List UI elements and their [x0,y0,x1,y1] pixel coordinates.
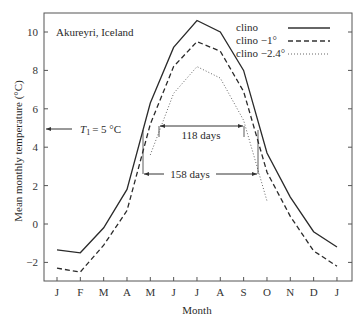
legend-label-clino: clino [236,21,258,33]
arrow-left-icon [160,124,165,128]
plot-frame [44,13,352,281]
x-tick-label: M [145,286,155,298]
y-tick-label: 2 [33,180,39,192]
series-line [57,42,337,272]
arrow-left-icon [46,127,51,131]
x-tick-label: F [77,286,83,298]
x-axis: JFMAMJJASONDJ [55,277,340,298]
threshold-annotation: T1= 5 °C [46,123,121,137]
y-axis-label: Mean monthly temperature (°C) [12,80,25,222]
legend-label-clino-2-4: clino −2.4° [236,47,285,59]
y-axis: 1086420−2 [26,26,352,268]
x-tick-label: M [99,286,109,298]
x-tick-label: S [241,286,247,298]
x-tick-label: A [123,286,131,298]
y-tick-label: 6 [33,103,39,115]
legend-label-clino-1: clino −1° [236,34,277,46]
x-tick-label: N [286,286,294,298]
arrow-right-icon [252,172,257,176]
y-tick-label: 4 [33,141,39,153]
x-tick-label: J [55,286,60,298]
span-118-label: 118 days [181,129,220,141]
legend: clino clino −1° clino −2.4° [236,21,330,59]
y-tick-label: 10 [27,26,39,38]
x-tick-label: J [335,286,340,298]
chart-title: Akureyri, Iceland [56,26,134,38]
span-158-label: 158 days [170,168,209,180]
series-lines [57,21,337,273]
arrow-left-icon [144,172,149,176]
x-axis-label: Month [182,304,212,316]
x-tick-label: D [310,286,318,298]
arrow-right-icon [238,124,243,128]
y-tick-label: −2 [26,256,38,268]
x-tick-label: O [263,286,271,298]
x-tick-label: J [195,286,200,298]
span-118-days: 118 days [159,124,244,141]
x-tick-label: J [172,286,177,298]
y-tick-label: 0 [33,218,39,230]
y-tick-label: 8 [33,64,39,76]
threshold-label: T1= 5 °C [80,123,121,137]
x-tick-label: A [216,286,224,298]
temperature-chart: 1086420−2 JFMAMJJASONDJ Akureyri, Icelan… [0,0,362,323]
